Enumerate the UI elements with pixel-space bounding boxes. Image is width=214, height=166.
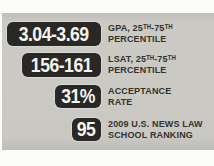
lsat-value: 156-161: [31, 53, 92, 78]
lsat-value-box: 156-161: [22, 53, 101, 77]
gpa-value-box: 3.04-3.69: [7, 22, 101, 46]
stat-row-ranking: 95 2009 U.S. NEWS LAW SCHOOL RANKING: [2, 118, 203, 141]
stats-panel: 3.04-3.69 GPA, 25ᵀᴴ-75ᵀᴴ PERCENTILE 156-…: [2, 13, 214, 150]
stat-row-lsat: 156-161 LSAT, 25ᵀᴴ-75ᵀᴴ PERCENTILE: [2, 53, 176, 77]
stat-row-acceptance: 31% ACCEPTANCE RATE: [2, 85, 171, 108]
gpa-label-line2: PERCENTILE: [108, 34, 173, 45]
ranking-label-line2: SCHOOL RANKING: [108, 130, 203, 141]
gpa-value: 3.04-3.69: [19, 22, 89, 47]
lsat-label-line2: PERCENTILE: [108, 65, 176, 76]
acceptance-value: 31%: [61, 84, 95, 109]
acceptance-label-line2: RATE: [108, 97, 171, 108]
lsat-label-line1: LSAT, 25ᵀᴴ-75ᵀᴴ: [108, 54, 176, 65]
stat-box-column: 3.04-3.69: [2, 22, 101, 46]
stat-box-column: 31%: [2, 85, 101, 108]
magazine-stats-clipping: 3.04-3.69 GPA, 25ᵀᴴ-75ᵀᴴ PERCENTILE 156-…: [0, 0, 214, 166]
stat-box-column: 95: [2, 118, 101, 141]
ranking-value-box: 95: [72, 118, 101, 141]
acceptance-label: ACCEPTANCE RATE: [108, 86, 171, 108]
stat-box-column: 156-161: [2, 53, 101, 77]
acceptance-label-line1: ACCEPTANCE: [108, 86, 171, 97]
ranking-value: 95: [77, 117, 96, 142]
ranking-label-line1: 2009 U.S. NEWS LAW: [108, 119, 203, 130]
gpa-label-line1: GPA, 25ᵀᴴ-75ᵀᴴ: [108, 23, 173, 34]
stat-row-gpa: 3.04-3.69 GPA, 25ᵀᴴ-75ᵀᴴ PERCENTILE: [2, 22, 173, 46]
lsat-label: LSAT, 25ᵀᴴ-75ᵀᴴ PERCENTILE: [108, 54, 176, 76]
ranking-label: 2009 U.S. NEWS LAW SCHOOL RANKING: [108, 119, 203, 141]
acceptance-value-box: 31%: [55, 85, 101, 108]
gpa-label: GPA, 25ᵀᴴ-75ᵀᴴ PERCENTILE: [108, 23, 173, 45]
